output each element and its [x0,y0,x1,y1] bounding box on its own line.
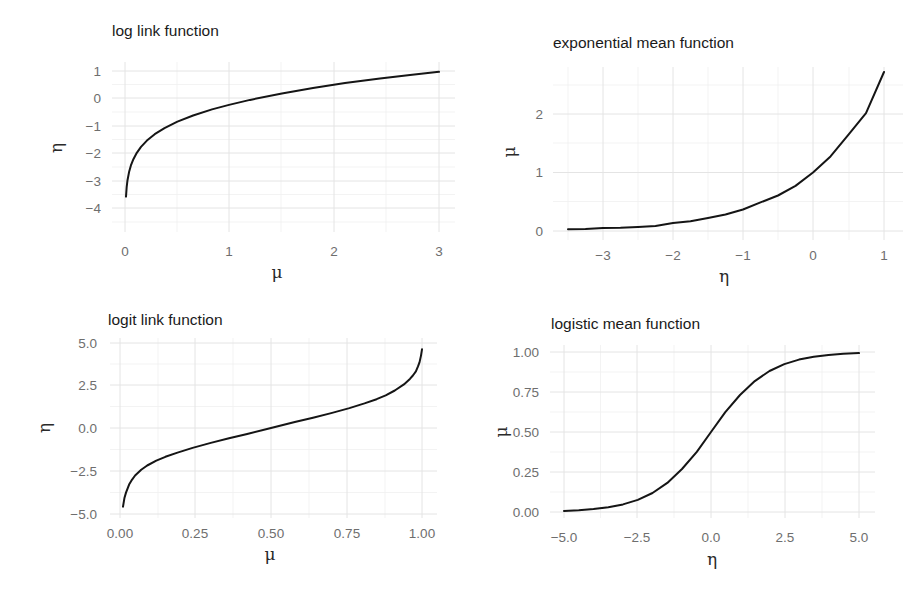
y-axis-label: μ [499,146,519,157]
svg-text:3: 3 [435,244,443,259]
svg-text:0.0: 0.0 [78,421,97,436]
svg-text:0.25: 0.25 [513,465,539,480]
curve-log [126,72,439,197]
x-axis-label: η [719,266,729,286]
x-axis-label: η [707,549,717,569]
svg-text:−3: −3 [86,174,101,189]
svg-text:−5.0: −5.0 [70,507,97,522]
svg-text:0.25: 0.25 [182,526,208,541]
svg-text:−2: −2 [86,146,101,161]
svg-text:0.00: 0.00 [513,505,539,520]
svg-text:0.75: 0.75 [513,385,539,400]
y-ticks: 1.00 0.75 0.50 0.25 0.00 [513,345,539,520]
panel-log-link: log link function [46,22,455,282]
svg-text:2: 2 [330,244,338,259]
panel-title: log link function [112,22,219,39]
svg-text:−3: −3 [595,248,610,263]
y-axis-label: η [34,423,54,433]
panel-exp-mean: exponential mean function 0 1 2 −3 [499,34,903,286]
x-ticks: −5.0 −2.5 0.0 2.5 5.0 [551,530,869,545]
grid [112,62,455,232]
panel-logistic-mean: logistic mean function 1.00 0.75 0.50 [491,315,875,569]
svg-text:0.00: 0.00 [107,526,133,541]
svg-text:−1: −1 [86,119,101,134]
svg-text:1.00: 1.00 [513,345,539,360]
y-ticks: 0 1 2 [535,107,543,239]
svg-text:−4: −4 [86,201,102,216]
panel-logit-link: logit link function 5.0 2.5 0.0 −2. [34,311,437,564]
x-axis-label: μ [271,262,282,282]
x-ticks: 0 1 2 3 [121,244,443,259]
svg-text:0: 0 [121,244,129,259]
svg-text:2.5: 2.5 [78,378,97,393]
svg-text:0.75: 0.75 [334,526,360,541]
panel-title: logistic mean function [551,315,700,332]
panel-title: exponential mean function [553,34,734,51]
y-axis-label: η [46,143,66,153]
y-ticks: 1 0 −1 −2 −3 −4 [86,64,102,216]
panel-title: logit link function [108,311,223,328]
svg-text:0.0: 0.0 [702,530,721,545]
svg-text:2.5: 2.5 [776,530,795,545]
x-ticks: 0.00 0.25 0.50 0.75 1.00 [107,526,435,541]
y-ticks: 5.0 2.5 0.0 −2.5 −5.0 [70,336,97,522]
svg-text:1: 1 [225,244,233,259]
svg-text:1.00: 1.00 [409,526,435,541]
svg-text:0: 0 [93,91,101,106]
x-axis-label: μ [264,544,275,564]
svg-text:5.0: 5.0 [850,530,869,545]
svg-text:1: 1 [880,248,888,263]
svg-text:5.0: 5.0 [78,336,97,351]
figure: log link function [0,0,918,597]
svg-text:−5.0: −5.0 [551,530,578,545]
svg-text:−2.5: −2.5 [70,464,97,479]
svg-text:−1: −1 [735,248,750,263]
svg-text:0: 0 [809,248,817,263]
y-axis-label: μ [491,426,511,437]
svg-text:2: 2 [535,107,543,122]
svg-text:1: 1 [93,64,101,79]
svg-text:−2: −2 [665,248,680,263]
svg-text:−2.5: −2.5 [624,530,651,545]
svg-text:0: 0 [535,224,543,239]
x-ticks: −3 −2 −1 0 1 [595,248,887,263]
svg-text:1: 1 [535,165,543,180]
curve-exp [568,72,884,229]
svg-text:0.50: 0.50 [258,526,284,541]
svg-text:0.50: 0.50 [513,425,539,440]
